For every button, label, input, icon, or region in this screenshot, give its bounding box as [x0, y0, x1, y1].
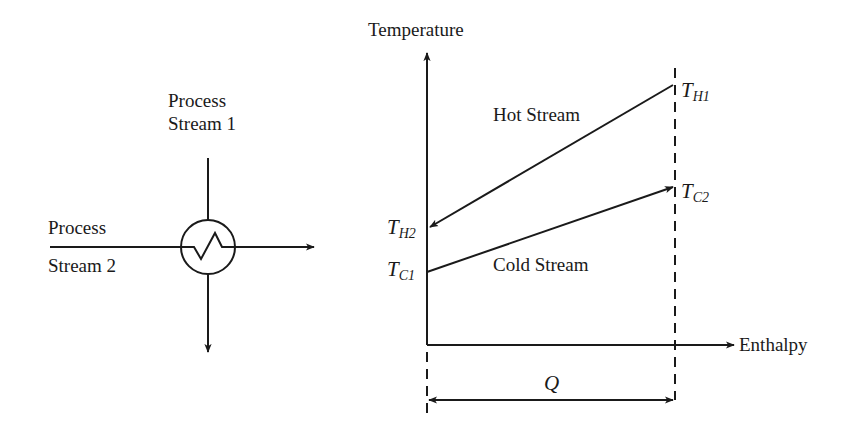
hot-stream-label: Hot Stream	[493, 105, 580, 124]
stream1-label-line2: Stream 1	[168, 114, 236, 133]
diagram-canvas	[0, 0, 863, 442]
stream1-label-line1: Process	[168, 91, 226, 110]
th-diagram	[427, 53, 734, 415]
tc2-label: TC2	[681, 181, 709, 205]
th2-label: TH2	[387, 217, 416, 241]
y-axis-label: Temperature	[368, 20, 464, 39]
x-axis-label: Enthalpy	[739, 335, 808, 354]
stream2-label-line2: Stream 2	[48, 256, 116, 275]
stream2-label-line1: Process	[48, 218, 106, 237]
cold-stream-label: Cold Stream	[493, 255, 589, 274]
th1-label: TH1	[681, 80, 710, 104]
tc1-label: TC1	[387, 259, 415, 283]
q-label: Q	[544, 373, 559, 394]
